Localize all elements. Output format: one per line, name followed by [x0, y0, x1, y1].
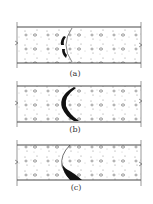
concrete-fill	[17, 86, 141, 122]
concrete-fill	[17, 145, 141, 180]
panel-b: (b)	[15, 81, 142, 134]
panel-a-label: (a)	[69, 69, 80, 78]
panel-b-label: (b)	[69, 125, 80, 134]
panel-a: (a)	[15, 22, 142, 78]
panel-c: (c)	[15, 140, 142, 192]
panel-c-label: (c)	[71, 183, 82, 192]
concrete-fill	[17, 27, 141, 63]
diagram-canvas: (a) (b) (c)	[0, 0, 153, 204]
